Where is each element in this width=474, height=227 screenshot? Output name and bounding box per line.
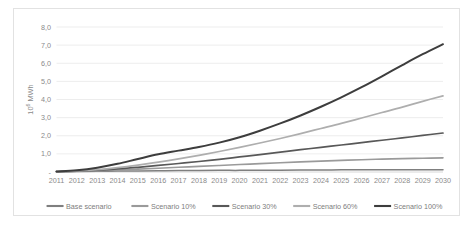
legend-item[interactable]: Base scenario xyxy=(47,202,112,211)
x-tick-label: 2015 xyxy=(130,176,146,185)
y-axis-title-text: 106 MWh xyxy=(25,84,35,114)
x-tick-label: 2018 xyxy=(191,176,207,185)
y-tick-label: 5,0 xyxy=(41,77,51,86)
line-chart: -1,02,03,04,05,06,07,08,0 20112012201320… xyxy=(0,0,474,227)
legend-label: Scenario 100% xyxy=(394,202,443,211)
x-tick-label: 2024 xyxy=(313,176,329,185)
y-axis-tick-labels: -1,02,03,04,05,06,07,08,0 xyxy=(41,23,52,177)
legend-label: Scenario 30% xyxy=(232,202,277,211)
x-tick-label: 2022 xyxy=(272,176,288,185)
x-tick-label: 2030 xyxy=(435,176,451,185)
x-tick-label: 2011 xyxy=(49,176,64,185)
legend-item[interactable]: Scenario 10% xyxy=(131,202,196,211)
x-tick-label: 2023 xyxy=(293,176,309,185)
legend-item[interactable]: Scenario 60% xyxy=(293,202,358,211)
y-tick-label: 1,0 xyxy=(41,149,51,158)
legend-label: Scenario 10% xyxy=(151,202,196,211)
x-tick-label: 2014 xyxy=(110,176,126,185)
x-tick-label: 2027 xyxy=(374,176,390,185)
x-tick-label: 2019 xyxy=(211,176,227,185)
series-line xyxy=(57,133,444,172)
gridlines-group xyxy=(57,27,444,172)
legend-label: Scenario 60% xyxy=(313,202,358,211)
x-tick-label: 2017 xyxy=(171,176,187,185)
legend-label: Base scenario xyxy=(66,202,112,211)
x-tick-label: 2020 xyxy=(232,176,248,185)
legend-item[interactable]: Scenario 30% xyxy=(212,202,277,211)
x-tick-label: 2028 xyxy=(394,176,410,185)
y-tick-label: 4,0 xyxy=(41,95,51,104)
x-tick-label: 2013 xyxy=(89,176,105,185)
x-axis-tick-labels: 2011201220132014201520162017201820192020… xyxy=(49,176,451,185)
x-tick-label: 2029 xyxy=(415,176,431,185)
y-tick-label: 3,0 xyxy=(41,113,51,122)
x-tick-label: 2016 xyxy=(150,176,166,185)
y-tick-label: 8,0 xyxy=(41,23,51,32)
legend-item[interactable]: Scenario 100% xyxy=(374,202,443,211)
x-tick-label: 2012 xyxy=(69,176,85,185)
y-tick-label: 6,0 xyxy=(41,59,51,68)
y-axis-title: 106 MWh xyxy=(25,84,35,114)
y-tick-label: 7,0 xyxy=(41,41,51,50)
chart-legend: Base scenarioScenario 10%Scenario 30%Sce… xyxy=(47,202,443,211)
x-tick-label: 2025 xyxy=(333,176,349,185)
y-tick-label: 2,0 xyxy=(41,131,51,140)
x-tick-label: 2026 xyxy=(354,176,370,185)
x-tick-label: 2021 xyxy=(252,176,268,185)
